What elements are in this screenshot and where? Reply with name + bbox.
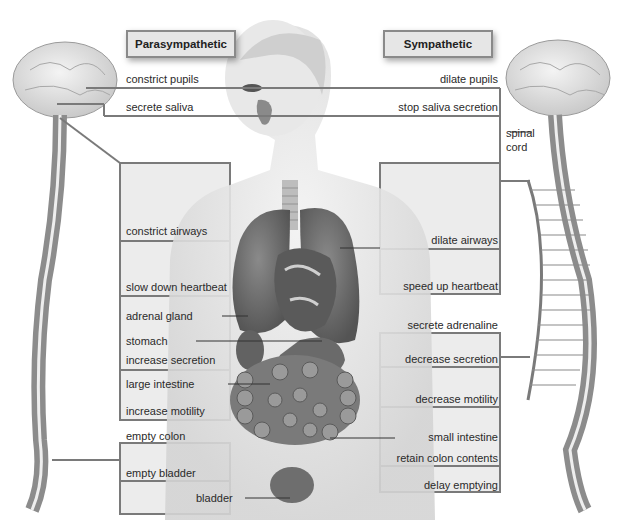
label-increase-motility: increase motility: [126, 405, 205, 418]
label-decrease-secretion: decrease secretion: [405, 353, 498, 366]
label-increase-secretion: increase secretion: [126, 354, 215, 367]
anatomy-illustration: [0, 0, 634, 520]
label-retain-colon-contents: retain colon contents: [396, 452, 498, 465]
label-adrenal-gland: adrenal gland: [126, 310, 193, 323]
right-brain-spine: [506, 40, 610, 510]
label-empty-colon: empty colon: [126, 430, 185, 443]
label-stomach: stomach: [126, 335, 168, 348]
label-delay-emptying: delay emptying: [424, 479, 498, 492]
label-large-intestine: large intestine: [126, 378, 195, 391]
label-spinal-cord: spinal cord: [506, 126, 535, 154]
label-secrete-saliva: secrete saliva: [126, 101, 193, 114]
left-brain-spine: [13, 42, 117, 510]
label-small-intestine: small intestine: [428, 431, 498, 444]
label-speed-up-heartbeat: speed up heartbeat: [403, 280, 498, 293]
label-decrease-motility: decrease motility: [415, 393, 498, 406]
label-slow-down-heartbeat: slow down heartbeat: [126, 281, 227, 294]
label-secrete-adrenaline: secrete adrenaline: [407, 319, 498, 332]
label-dilate-pupils: dilate pupils: [440, 73, 498, 86]
label-bladder: bladder: [196, 492, 233, 505]
label-constrict-pupils: constrict pupils: [126, 73, 199, 86]
sympathetic-header: Sympathetic: [383, 30, 493, 58]
label-empty-bladder: empty bladder: [126, 467, 196, 480]
label-stop-saliva-secretion: stop saliva secretion: [398, 101, 498, 114]
label-dilate-airways: dilate airways: [431, 234, 498, 247]
label-constrict-airways: constrict airways: [126, 225, 207, 238]
parasympathetic-header: Parasympathetic: [126, 30, 236, 58]
